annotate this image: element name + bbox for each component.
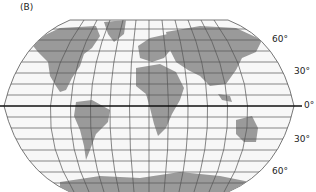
lat-label-30n: 30° bbox=[294, 66, 310, 76]
lat-label-30s: 30° bbox=[294, 134, 310, 144]
lat-label-equator: 0° bbox=[304, 100, 314, 110]
lat-label-60s: 60° bbox=[272, 166, 288, 176]
lat-label-60n: 60° bbox=[272, 34, 288, 44]
world-map bbox=[0, 0, 316, 192]
